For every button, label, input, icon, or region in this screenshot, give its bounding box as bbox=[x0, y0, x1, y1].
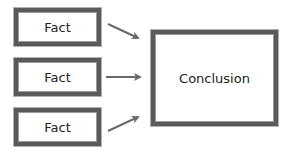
arrow-icon-3 bbox=[108, 117, 138, 131]
arrow-icon-1 bbox=[108, 24, 138, 38]
arrows-layer bbox=[0, 0, 290, 152]
